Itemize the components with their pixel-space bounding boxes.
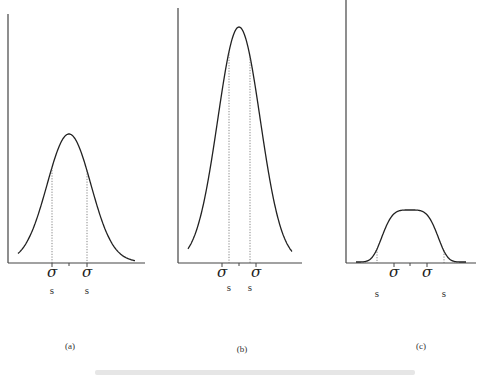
sigma-label: σ	[251, 265, 261, 280]
panel-a-label: (a)	[65, 341, 75, 351]
sigma-label: σ	[389, 265, 399, 280]
s-label: s	[85, 285, 89, 296]
figure-caption	[95, 370, 415, 375]
panel-b-plot	[178, 8, 302, 267]
s-label: s	[227, 282, 231, 293]
panel-a-plot	[8, 14, 145, 267]
distribution-curve	[356, 210, 466, 262]
panel-c-label: (c)	[416, 341, 426, 351]
panel-c-plot	[346, 0, 476, 267]
panel-b-label: (b)	[237, 344, 248, 354]
sigma-label: σ	[217, 265, 227, 280]
s-label: s	[248, 282, 252, 293]
sigma-label: σ	[82, 265, 92, 280]
distribution-figure	[0, 0, 487, 381]
s-label: s	[375, 288, 379, 299]
sigma-label: σ	[47, 265, 57, 280]
distribution-curve	[188, 27, 292, 252]
distribution-curve	[18, 134, 135, 261]
sigma-label: σ	[422, 265, 432, 280]
s-label: s	[50, 285, 54, 296]
s-label: s	[442, 288, 446, 299]
